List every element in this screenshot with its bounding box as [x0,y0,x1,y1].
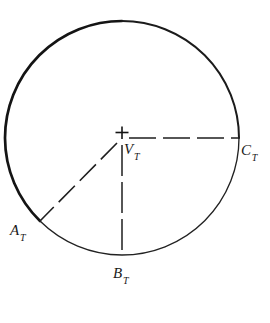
label-a-subscript: T [20,232,26,243]
label-b-base: B [113,265,122,281]
vertex-label-v: VT [124,142,139,160]
label-v-subscript: T [134,151,140,162]
label-b-subscript: T [123,275,129,286]
plus-cross-icon [116,127,129,140]
circle-arc-medium [122,21,239,138]
figure-canvas: VT AT BT CT [0,0,270,323]
circle-arc-light [40,138,239,255]
point-label-a: AT [10,223,25,241]
label-v-base: V [124,141,133,157]
radius-line-to-a [40,143,117,221]
circle-arc-heavy [5,21,122,221]
label-c-subscript: T [252,152,258,163]
point-label-c: CT [241,143,257,161]
point-label-b: BT [113,266,128,284]
label-a-base: A [10,222,19,238]
label-c-base: C [241,142,251,158]
